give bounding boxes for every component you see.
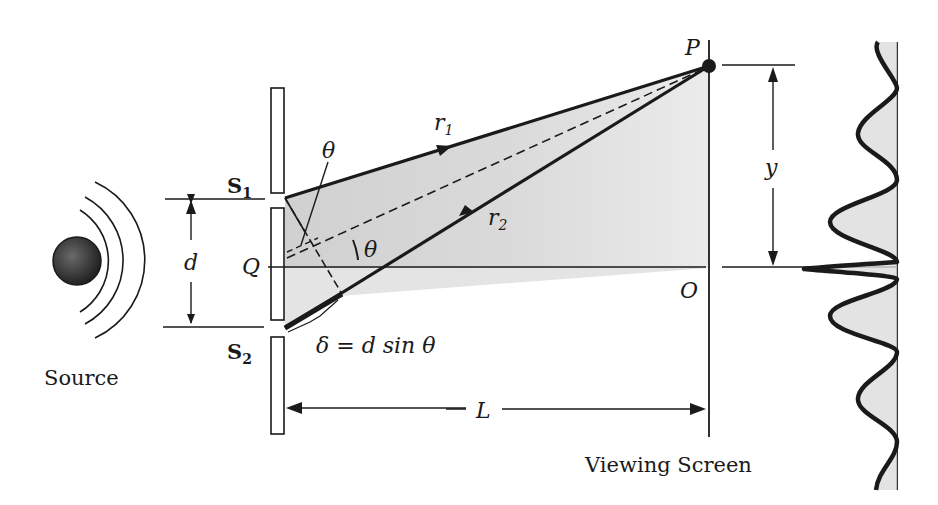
slit2-label: S2 bbox=[227, 339, 252, 367]
wavefront-3 bbox=[95, 182, 145, 338]
theta-center-label: θ bbox=[364, 237, 377, 262]
path-difference-label: δ = d sin θ bbox=[316, 333, 435, 358]
viewing-screen-label: Viewing Screen bbox=[584, 453, 752, 477]
q-label: Q bbox=[242, 254, 260, 279]
y-dimension: y bbox=[722, 65, 795, 266]
source-icon bbox=[53, 237, 101, 285]
l-label: L bbox=[475, 398, 491, 423]
barrier-middle bbox=[271, 208, 284, 320]
d-label: d bbox=[184, 250, 198, 275]
slit1-label: S1 bbox=[227, 173, 252, 201]
o-label: O bbox=[680, 278, 698, 303]
p-label: P bbox=[684, 35, 701, 60]
intensity-pattern bbox=[804, 42, 897, 490]
slit-barrier bbox=[271, 88, 284, 434]
r1-label: r1 bbox=[434, 110, 453, 138]
d-dimension: d bbox=[184, 200, 198, 323]
barrier-bottom bbox=[271, 337, 284, 434]
theta-top-label: θ bbox=[322, 138, 335, 163]
y-label: y bbox=[764, 155, 778, 180]
l-dimension: L bbox=[286, 396, 706, 423]
source: Source bbox=[44, 182, 145, 390]
source-label: Source bbox=[44, 366, 119, 390]
double-slit-diagram: Source d S1 S2 Q O Viewing Screen P r1 bbox=[0, 0, 938, 505]
barrier-top bbox=[271, 88, 284, 193]
